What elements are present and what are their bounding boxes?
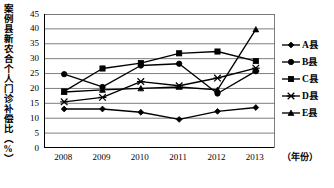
y-axis-tick-labels: 454035302520151050 (16, 0, 42, 188)
series-line-C县 (64, 52, 256, 92)
legend-label: A县 (301, 40, 319, 50)
legend-marker-diamond-icon (281, 39, 301, 51)
y-tick-label: 5 (35, 129, 40, 138)
marker-diamond (288, 42, 294, 48)
series-A县 (61, 105, 258, 123)
chart-figure: 案例县新农合个人门诊补偿比（%） 454035302520151050 2008… (0, 0, 334, 188)
x-tick-label: 2011 (169, 152, 187, 162)
y-tick-label: 40 (30, 24, 39, 33)
legend-label: C县 (301, 74, 319, 84)
x-axis-title: （年份） (282, 152, 318, 162)
legend-label: B县 (301, 57, 318, 67)
series-line-E县 (64, 29, 256, 92)
marker-square (138, 61, 143, 66)
marker-square (100, 66, 105, 71)
y-tick-label: 10 (30, 114, 39, 123)
y-tick-label: 0 (35, 144, 40, 153)
legend-item-B县[interactable]: B县 (281, 53, 334, 70)
x-tick-label: 2012 (208, 152, 226, 162)
marker-circle (176, 61, 181, 66)
y-tick-label: 20 (30, 84, 39, 93)
y-axis-title: 案例县新农合个人门诊补偿比（%） (0, 4, 16, 164)
legend-item-A县[interactable]: A县 (281, 36, 334, 53)
marker-diamond (176, 117, 182, 123)
marker-diamond (61, 106, 67, 112)
marker-square (177, 51, 182, 56)
legend-item-C县[interactable]: C县 (281, 70, 334, 87)
legend-marker-square-icon (281, 73, 301, 85)
marker-circle (61, 71, 66, 76)
marker-diamond (138, 109, 144, 115)
marker-circle (288, 59, 293, 64)
y-tick-label: 25 (30, 69, 39, 78)
legend-item-D县[interactable]: D县 (281, 87, 334, 104)
x-tick-label: 2013 (246, 152, 264, 162)
x-tick-label: 2009 (93, 152, 111, 162)
chart-legend: A县B县C县D县E县 (281, 36, 334, 121)
marker-diamond (100, 106, 106, 112)
plot-svg (45, 14, 275, 148)
marker-square (288, 76, 293, 81)
legend-marker-x-icon (281, 90, 301, 102)
y-tick-label: 30 (30, 54, 39, 63)
legend-marker-circle-icon (281, 56, 301, 68)
legend-marker-triangle-icon (281, 107, 301, 119)
x-tick-label: 2008 (54, 152, 72, 162)
legend-label: D县 (301, 91, 319, 101)
legend-label: E县 (301, 108, 318, 118)
series-line-B县 (64, 64, 256, 94)
y-tick-label: 35 (30, 39, 39, 48)
plot-area (44, 14, 274, 148)
y-tick-label: 15 (30, 99, 39, 108)
x-tick-label: 2010 (131, 152, 149, 162)
marker-diamond (253, 105, 259, 111)
marker-square (215, 49, 220, 54)
marker-square (253, 58, 258, 63)
legend-item-E县[interactable]: E县 (281, 104, 334, 121)
marker-diamond (215, 108, 221, 114)
y-tick-label: 45 (30, 10, 39, 19)
series-line-A县 (64, 108, 256, 120)
